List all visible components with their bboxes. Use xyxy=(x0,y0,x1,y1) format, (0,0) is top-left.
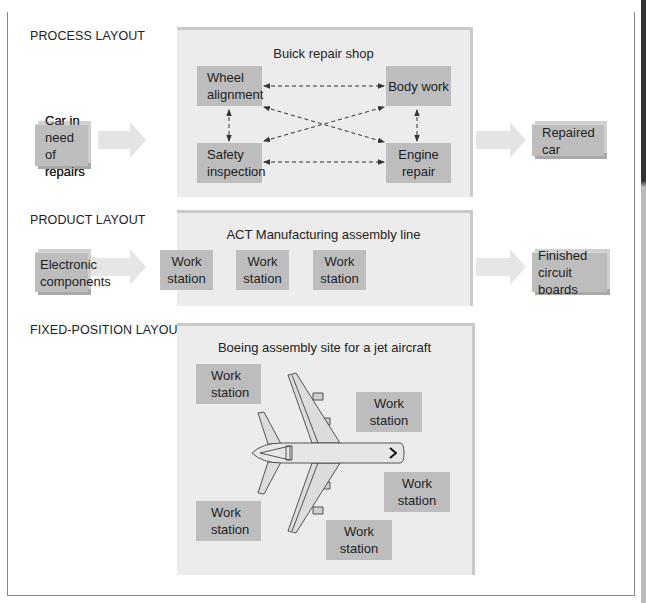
jet-aircraft-icon xyxy=(0,0,646,603)
